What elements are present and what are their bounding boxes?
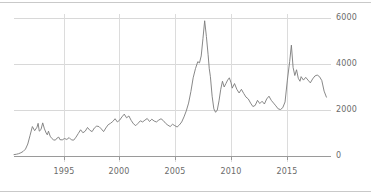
series-line-chart bbox=[14, 14, 331, 162]
xtick-mark-2000 bbox=[119, 156, 120, 160]
plot-area bbox=[14, 14, 331, 162]
xtick-label-2010: 2010 bbox=[220, 168, 241, 176]
xtick-mark-2015 bbox=[287, 156, 288, 160]
series-path-index bbox=[14, 21, 326, 155]
ytick-label-4000: 4000 bbox=[336, 60, 357, 68]
bottom-divider bbox=[0, 191, 371, 192]
ytick-label-6000: 6000 bbox=[336, 14, 357, 22]
xtick-label-2000: 2000 bbox=[108, 168, 129, 176]
chart-figure: 6000 4000 2000 0 1995 2000 2005 2010 201… bbox=[0, 0, 371, 195]
xtick-mark-2005 bbox=[175, 156, 176, 160]
xtick-label-2005: 2005 bbox=[164, 168, 185, 176]
xtick-label-2015: 2015 bbox=[276, 168, 297, 176]
xtick-mark-2010 bbox=[231, 156, 232, 160]
xtick-label-1995: 1995 bbox=[53, 168, 74, 176]
ytick-label-0: 0 bbox=[336, 152, 341, 160]
ytick-label-2000: 2000 bbox=[336, 106, 357, 114]
top-divider bbox=[0, 2, 371, 3]
xtick-mark-1995 bbox=[64, 156, 65, 160]
